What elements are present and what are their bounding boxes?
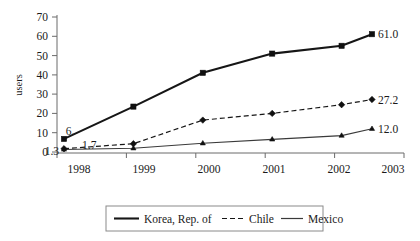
line-chart: 70 60 50 40 30 20 10 0 users 1998 1999 2… (0, 0, 420, 241)
y-tick-label-30: 30 (37, 88, 49, 100)
data-point-korea-2002 (339, 43, 344, 48)
x-tick-label-2000: 2000 (198, 163, 221, 175)
series-korea (61, 32, 374, 142)
data-point-chile-2001 (269, 110, 275, 116)
y-tick-marks (52, 17, 57, 152)
label-korea-2003: 61.0 (378, 28, 398, 40)
y-tick-label-20: 20 (37, 107, 49, 119)
label-chile-1998: 1.7 (82, 139, 97, 151)
chart-canvas: 70 60 50 40 30 20 10 0 users 1998 1999 2… (0, 0, 420, 241)
y-tick-label-10: 10 (37, 127, 49, 139)
x-tick-label-2001: 2001 (263, 163, 286, 175)
x-tick-marks (57, 153, 404, 158)
data-point-korea-1998 (61, 136, 66, 141)
data-point-korea-2000 (200, 70, 205, 75)
x-tick-label-2003: 2003 (382, 163, 405, 175)
series-chile (61, 96, 375, 152)
legend-label-mexico: Mexico (308, 213, 343, 225)
data-point-korea-1999 (131, 104, 136, 109)
data-point-chile-1999 (130, 141, 136, 147)
data-point-chile-2000 (200, 117, 206, 123)
legend-label-korea: Korea, Rep. of (144, 213, 212, 226)
y-tick-label-60: 60 (37, 30, 49, 42)
data-point-korea-2003 (369, 32, 374, 37)
label-chile-2003: 27.2 (378, 94, 398, 106)
data-point-chile-2002 (338, 102, 344, 108)
chart-legend: Korea, Rep. of Chile Mexico (106, 206, 343, 231)
x-tick-label-1998: 1998 (68, 163, 91, 175)
series-mexico (61, 126, 374, 151)
data-point-chile-2003 (369, 96, 375, 102)
data-point-mexico-2003 (369, 126, 374, 130)
legend-label-chile: Chile (249, 213, 274, 225)
label-mexico-2003: 12.0 (378, 123, 398, 135)
y-axis-title: users (13, 74, 24, 96)
x-tick-label-2002: 2002 (328, 163, 351, 175)
x-tick-label-1999: 1999 (133, 163, 156, 175)
label-mexico-1998: 1.3 (45, 145, 60, 157)
data-point-korea-2001 (270, 51, 275, 56)
y-tick-label-50: 50 (37, 50, 49, 62)
label-korea-1998: 6. (66, 125, 75, 137)
y-tick-label-40: 40 (37, 69, 49, 81)
y-tick-label-70: 70 (37, 11, 49, 23)
